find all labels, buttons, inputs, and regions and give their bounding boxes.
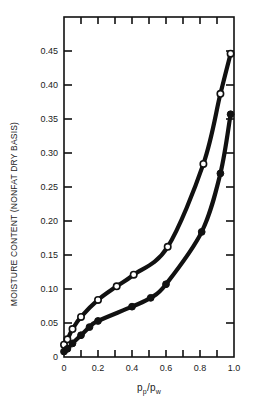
filled-circle-marker [129,303,136,310]
y-tick-label: 0.35 [40,114,58,124]
filled-circle-marker [147,294,154,301]
filled-circle-marker [78,332,85,339]
y-tick-label: 0.20 [40,216,58,226]
y-tick-label: 0.40 [40,80,58,90]
open-circle-marker [200,161,206,167]
x-tick-label: 0 [61,363,66,373]
filled-circle-marker [227,111,234,118]
filled-circle-marker [64,345,71,352]
filled-circle-marker [69,340,76,347]
sorption-isotherm-chart: 00.20.40.60.81.0 00.050.100.150.200.250.… [0,0,253,414]
x-tick-label: 0.2 [92,363,105,373]
open-circle-marker [217,91,223,97]
filled-circle-marker [163,281,170,288]
x-tick-label: 0.8 [194,363,207,373]
y-tick-label: 0.05 [40,318,58,328]
y-tick-label: 0.45 [40,46,58,56]
x-tick-label: 1.0 [228,363,241,373]
x-tick-label: 0.4 [126,363,139,373]
filled-circle-marker [198,228,205,235]
y-axis-ticks [64,51,234,323]
open-circle-marker [131,272,137,278]
y-axis-title: MOISTURE CONTENT (NONFAT DRY BASIS) [9,122,19,306]
x-axis-tick-labels: 00.20.40.60.81.0 [61,363,240,373]
y-tick-label: 0.10 [40,284,58,294]
x-axis-title-slash: /p [147,382,156,393]
y-tick-label: 0.15 [40,250,58,260]
open-circle-marker [114,283,120,289]
open-circle-marker [227,51,233,57]
open-circle-marker [95,297,101,303]
x-tick-label: 0.6 [160,363,173,373]
x-axis-title-sub2: w [155,388,162,395]
filled-circle-marker [217,170,224,177]
y-tick-label: 0.25 [40,182,58,192]
filled-circle-marker [86,324,93,331]
y-tick-label: 0 [53,352,58,362]
data-curves [64,54,231,352]
y-axis-tick-labels: 00.050.100.150.200.250.300.350.400.45 [40,46,58,362]
open-circle-marker [69,326,75,332]
open-circle-marker [78,314,84,320]
open-circle-marker [165,244,171,250]
filled-circle-marker [95,318,102,325]
y-tick-label: 0.30 [40,148,58,158]
x-axis-title: pp/pw [137,382,162,396]
